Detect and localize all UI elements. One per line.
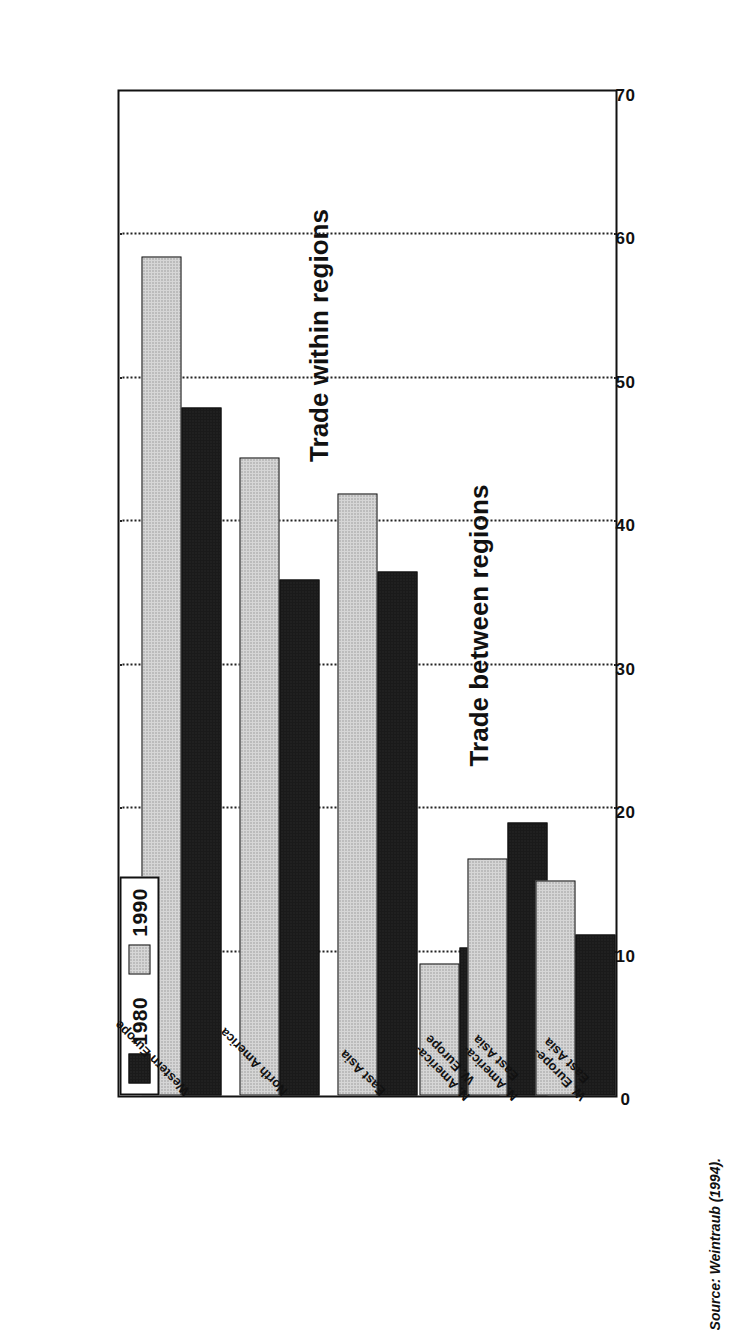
rotated-chart-canvas: Trade within regionsTrade between region… — [99, 89, 642, 1097]
value-axis-ticks: 010203040506070 — [617, 89, 642, 1097]
panel-title-between: Trade between regions — [464, 484, 495, 766]
bar-1980-2 — [377, 572, 417, 1096]
source-caption: Source: Weintraub (1994). — [707, 1158, 723, 1330]
source-caption-text: Source: Weintraub (1994). — [707, 1158, 723, 1330]
legend-label-1990: 1990 — [127, 888, 151, 937]
bar-1980-1 — [279, 579, 319, 1095]
legend-swatch-1990-icon — [128, 944, 150, 974]
bar-1980-0 — [181, 407, 221, 1095]
plot-area: Trade within regionsTrade between region… — [117, 89, 617, 1097]
panel-title-within: Trade within regions — [304, 209, 335, 462]
bar-1990-1 — [239, 457, 279, 1095]
tick-label-50: 50 — [615, 372, 635, 392]
legend-item-1990: 1990 — [127, 888, 151, 975]
tick-label-20: 20 — [615, 802, 635, 822]
tick-label-0: 0 — [620, 1089, 630, 1109]
tick-label-70: 70 — [615, 85, 635, 105]
tick-label-40: 40 — [615, 515, 635, 535]
gridline-60 — [119, 232, 615, 234]
bar-1990-2 — [337, 493, 377, 1095]
tick-label-60: 60 — [615, 228, 635, 248]
gridline-50 — [119, 376, 615, 378]
tick-label-30: 30 — [615, 659, 635, 679]
tick-label-10: 10 — [615, 946, 635, 966]
